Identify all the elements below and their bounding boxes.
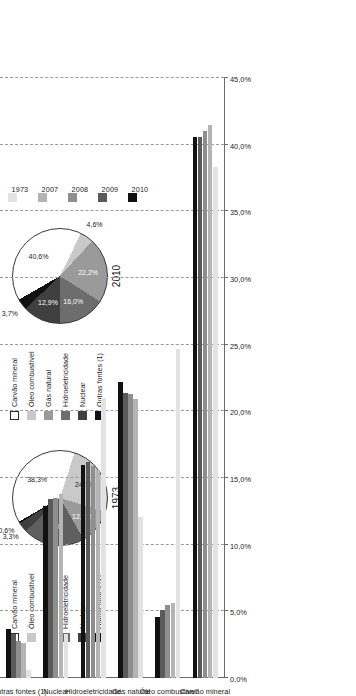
source-legend-label: Hidroeletricidade: [61, 353, 70, 407]
year-legend-item-2009: 2009: [98, 193, 107, 202]
bar-nuclear-2009: [48, 499, 53, 678]
bar--leo-combust-vel-1973: [176, 349, 181, 678]
legend-swatch-icon: [10, 411, 19, 420]
legend-swatch-icon: [68, 193, 77, 202]
year-legend-label: 2008: [72, 185, 89, 194]
gridline: [0, 477, 224, 478]
pie-slice-label: 16,0%: [59, 298, 87, 305]
pie-slices-2010: [12, 228, 108, 324]
bar-nuclear-2010: [43, 506, 48, 678]
pie-slice-label: 22,2%: [74, 269, 102, 276]
axis-tick-label: 5,0%: [230, 608, 247, 617]
bar--leo-combust-vel-2009: [160, 610, 165, 678]
year-legend-item-2007: 2007: [38, 193, 47, 202]
gridline: [0, 544, 224, 545]
source-legend-item-4: Nuclear: [78, 382, 87, 420]
source-legend-item-1: Óleo combustível: [27, 573, 36, 642]
bar--leo-combust-vel-2008: [165, 605, 170, 678]
source-legend-label: Gás natural: [44, 370, 53, 407]
bar-outras-fontes-1--2007: [21, 643, 26, 678]
legend-swatch-icon: [78, 411, 87, 420]
bar-g-s-natural-2010: [118, 382, 123, 678]
axis-tick-label: 0,0%: [230, 675, 247, 684]
category-label: Nuclear: [43, 687, 68, 696]
gridline: [0, 344, 224, 345]
pie-slice-label: 0,6%: [0, 527, 20, 534]
bar-carv-o-mineral-2007: [208, 125, 213, 678]
pie-chart-2010: Carvão mineralÓleo combustívelGás natura…: [10, 210, 115, 420]
axis-tick-label: 30,0%: [230, 275, 251, 284]
legend-swatch-icon: [27, 411, 36, 420]
category-label: Outras fontes (1): [0, 687, 46, 696]
bar-outras-fontes-1--1973: [26, 670, 31, 678]
bar-carv-o-mineral-1973: [213, 167, 218, 678]
bar-hidroeletricidade-2009: [86, 462, 91, 678]
year-legend: 19732007200820092010: [8, 176, 338, 202]
legend-swatch-icon: [44, 411, 53, 420]
gridline: [0, 210, 224, 211]
pie-legend-2010: Carvão mineralÓleo combustívelGás natura…: [10, 328, 114, 420]
gridline: [0, 410, 224, 411]
source-legend-label: Nuclear: [78, 382, 87, 407]
bar-outras-fontes-1--2010: [6, 629, 11, 678]
axis-tick-label: 15,0%: [230, 475, 251, 484]
year-legend-item-2008: 2008: [68, 193, 77, 202]
bar-carv-o-mineral-2010: [193, 137, 198, 678]
gridline: [0, 610, 224, 611]
pie-slice-label: 3,3%: [0, 533, 25, 540]
axis-tick-label: 20,0%: [230, 408, 251, 417]
bar-nuclear-2008: [53, 498, 58, 678]
bar-g-s-natural-2007: [133, 399, 138, 678]
source-legend-label: Óleo combustível: [27, 573, 36, 629]
bar--leo-combust-vel-2007: [171, 603, 176, 678]
bar-outras-fontes-1--2009: [11, 634, 16, 678]
axis-tick-label: 10,0%: [230, 542, 251, 551]
bar--leo-combust-vel-2010: [155, 617, 160, 678]
gridline: [0, 144, 224, 145]
bar-carv-o-mineral-2008: [203, 131, 208, 678]
year-legend-label: 1973: [12, 185, 29, 194]
bar-g-s-natural-2008: [128, 394, 133, 678]
bar-hidroeletricidade-1973: [101, 398, 106, 678]
category-label: Hidroeletricidade: [66, 687, 121, 696]
pie-slice-label: 40,6%: [25, 253, 53, 260]
gridline: [0, 277, 224, 278]
pie-slice-label: 4,6%: [81, 221, 109, 228]
bar-hidroeletricidade-2008: [91, 466, 96, 678]
year-legend-label: 2010: [132, 185, 149, 194]
legend-swatch-icon: [61, 411, 70, 420]
year-legend-item-1973: 1973: [8, 193, 17, 202]
bar-carv-o-mineral-2009: [198, 137, 203, 678]
source-legend-label: Carvão mineral: [10, 580, 19, 629]
category-axis-line: [224, 78, 225, 678]
bar-nuclear-2007: [59, 494, 64, 678]
axis-tick-label: 25,0%: [230, 342, 251, 351]
bar-hidroeletricidade-2010: [81, 465, 86, 678]
pie-title-2010: 2010: [111, 228, 122, 324]
source-legend-label: Carvão mineral: [10, 358, 19, 407]
bar-g-s-natural-2009: [123, 393, 128, 678]
bar-nuclear-1973: [64, 634, 69, 678]
bar-hidroeletricidade-2007: [96, 470, 101, 678]
axis-tick-label: 40,0%: [230, 142, 251, 151]
legend-swatch-icon: [8, 193, 17, 202]
bar-outras-fontes-1--2008: [16, 641, 21, 678]
year-legend-label: 2009: [102, 185, 119, 194]
source-legend-item-2: Gás natural: [44, 370, 53, 420]
gridline: [0, 77, 224, 78]
axis-tick-label: 35,0%: [230, 208, 251, 217]
year-legend-item-2010: 2010: [128, 193, 137, 202]
year-legend-label: 2007: [42, 185, 59, 194]
pie-slice-label: 12,9%: [34, 299, 62, 306]
axis-tick-label: 45,0%: [230, 75, 251, 84]
legend-swatch-icon: [27, 633, 36, 642]
legend-swatch-icon: [98, 193, 107, 202]
legend-swatch-icon: [128, 193, 137, 202]
pie-graphic-2010: 40,6%4,6%22,2%16,0%12,9%3,7%: [12, 228, 108, 324]
source-legend-label: Óleo combustível: [27, 351, 36, 407]
legend-swatch-icon: [38, 193, 47, 202]
value-axis-line: [0, 677, 224, 678]
bar-g-s-natural-1973: [138, 517, 143, 678]
pie-slice-label: 3,7%: [0, 310, 24, 317]
